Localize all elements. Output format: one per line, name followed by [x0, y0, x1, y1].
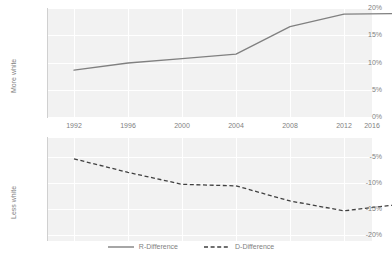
plot-area-top	[47, 8, 372, 118]
y-tick-label: -5%	[340, 153, 382, 161]
y-tick-label: 0%	[340, 113, 382, 121]
y-axis-spine-bottom	[47, 137, 48, 241]
y-tick-label: 20%	[340, 4, 382, 12]
series-r-difference	[47, 8, 372, 118]
x-tick-label: 2016	[352, 122, 392, 130]
chart-panel-more-white: 20% 15% 10% 5% 0% More white 1992 1996 2…	[0, 0, 382, 131]
x-tick-label: 1996	[108, 122, 148, 130]
x-tick-label: 2004	[216, 122, 256, 130]
y-tick-label: -20%	[340, 231, 382, 239]
legend-swatch-solid-icon	[108, 244, 134, 250]
y-tick-label: -10%	[340, 179, 382, 187]
series-d-difference	[47, 137, 372, 241]
chart-legend: R-Difference D-Difference	[0, 243, 382, 250]
legend-label: R-Difference	[139, 243, 178, 250]
x-tick-label: 2008	[270, 122, 310, 130]
y-tick-label: 10%	[340, 59, 382, 67]
plot-area-bottom	[47, 137, 372, 241]
legend-item-r-difference: R-Difference	[108, 243, 178, 250]
x-tick-label: 2000	[162, 122, 202, 130]
y-axis-title-top: More white	[10, 59, 17, 93]
y-tick-label: 5%	[340, 86, 382, 94]
legend-item-d-difference: D-Difference	[204, 243, 274, 250]
y-axis-title-bottom: Less white	[10, 186, 17, 219]
y-tick-label: 15%	[340, 31, 382, 39]
y-axis-spine-top	[47, 8, 48, 118]
legend-label: D-Difference	[235, 243, 274, 250]
x-tick-label: 1992	[54, 122, 94, 130]
y-tick-label: -15%	[340, 205, 382, 213]
legend-swatch-dashed-icon	[204, 244, 230, 250]
